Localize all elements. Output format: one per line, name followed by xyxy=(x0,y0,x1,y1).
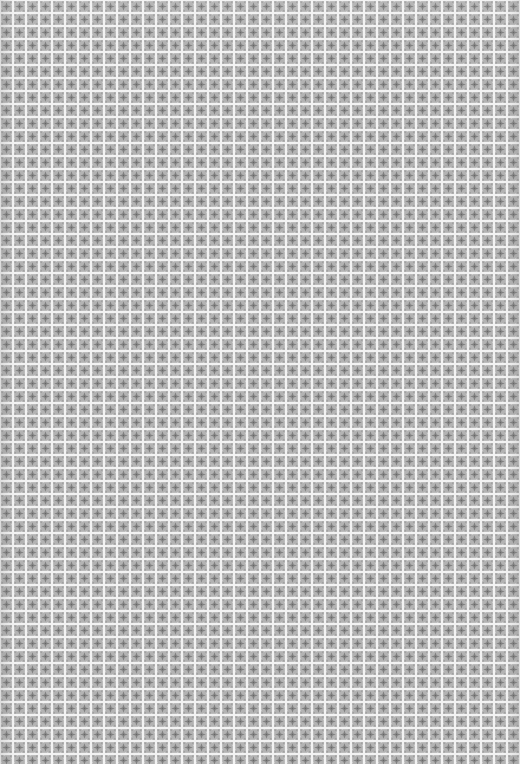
tiled-texture xyxy=(0,0,520,764)
